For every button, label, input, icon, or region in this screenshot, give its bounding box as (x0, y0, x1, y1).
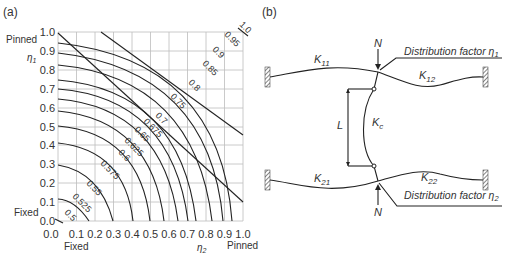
x-axis-var: η2 (197, 242, 207, 254)
hinge-top-icon (372, 87, 376, 91)
right-top-support-icon (483, 67, 488, 87)
x-axis-left-label: Fixed (64, 241, 88, 252)
x-tick: 0.9 (217, 228, 232, 240)
k11-label: K11 (314, 53, 330, 68)
panel-a: (a) (3, 5, 258, 254)
x-axis-right-label: Pinned (227, 240, 258, 251)
panel-b-label: (b) (262, 5, 277, 19)
curve-label: 0.55 (85, 178, 104, 197)
dim-arrow-up-icon (346, 89, 350, 93)
x-tick: 0.1 (69, 228, 84, 240)
y-tick: 0.0 (40, 215, 55, 227)
curve-label: 0.575 (99, 158, 122, 181)
right-bottom-support-icon (483, 170, 488, 190)
x-tick: 0.5 (143, 228, 158, 240)
curve-label: 0.85 (201, 58, 220, 77)
y-tick: 0.6 (40, 102, 55, 114)
y-tick: 0.3 (40, 158, 55, 170)
y-tick: 0.2 (40, 177, 55, 189)
kc-label: Kc (372, 116, 383, 131)
panel-a-label: (a) (3, 5, 18, 19)
y-tick: 0.1 (40, 196, 55, 208)
x-tick: 0.4 (124, 228, 139, 240)
curve-label: 1.0 (238, 19, 254, 35)
df-bottom-label: Distribution factor η2 (404, 189, 499, 203)
y-axis-top-label: Pinned (6, 34, 37, 45)
x-tick: 0.2 (87, 228, 102, 240)
left-bottom-support-icon (265, 170, 270, 190)
x-tick: 0.0 (43, 228, 58, 240)
x-tick: 0.8 (198, 228, 213, 240)
y-axis-ticks: 0.0 0.1 0.2 0.3 0.4 0.5 0.6 0.7 0.8 0.9 … (40, 26, 55, 227)
curve-label: 0.8 (187, 77, 203, 93)
y-tick: 0.8 (40, 64, 55, 76)
hinge-bottom-icon (372, 164, 376, 168)
y-axis-bottom-label: Fixed (14, 207, 38, 218)
df-top-label: Distribution factor η1 (404, 45, 499, 59)
dim-arrow-down-icon (346, 162, 350, 166)
y-axis-var: η1 (27, 52, 37, 64)
y-tick: 0.5 (40, 121, 55, 133)
arrow-down-icon (375, 64, 381, 70)
y-tick: 0.9 (40, 45, 55, 57)
y-tick: 0.7 (40, 83, 55, 95)
curve-0-6 (58, 126, 150, 221)
length-label: L (337, 119, 343, 131)
k12-label: K12 (419, 69, 436, 84)
panel-b: (b) (262, 5, 502, 218)
y-tick: 0.4 (40, 139, 55, 151)
left-top-support-icon (265, 67, 270, 87)
figure-canvas: (a) (0, 0, 507, 261)
load-top-label: N (374, 37, 382, 49)
beam-k11 (270, 68, 378, 77)
x-tick: 0.7 (180, 228, 195, 240)
load-bottom-label: N (374, 206, 382, 218)
x-tick: 0.3 (106, 228, 121, 240)
x-axis-ticks: 0.0 0.1 0.2 0.3 0.4 0.5 0.6 0.7 0.8 0.9 … (43, 228, 250, 240)
x-tick: 1.0 (235, 228, 250, 240)
y-tick: 1.0 (40, 26, 55, 38)
k21-label: K21 (314, 172, 330, 187)
x-tick: 0.6 (161, 228, 176, 240)
